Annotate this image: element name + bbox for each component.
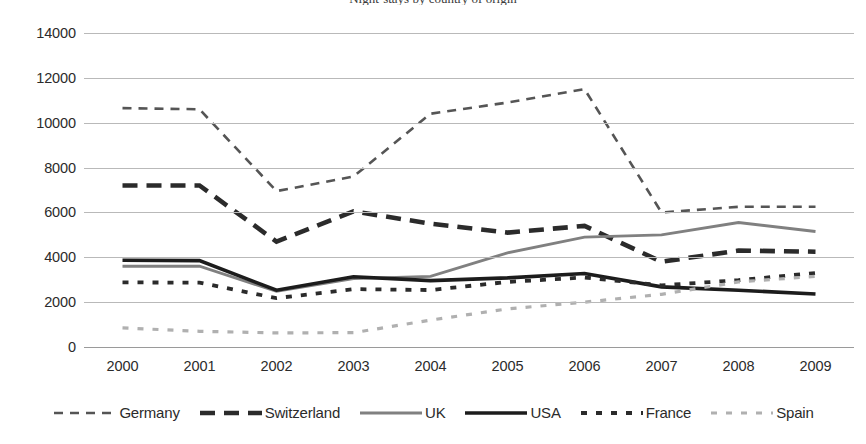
- series-line-germany: [123, 89, 816, 212]
- legend-item-switzerland[interactable]: Switzerland: [198, 404, 340, 421]
- legend-swatch-germany: [52, 406, 118, 420]
- y-tick-label: 6000: [6, 204, 76, 220]
- gridline-8000: [84, 168, 854, 169]
- y-tick-label: 4000: [6, 249, 76, 265]
- y-tick-label: 14000: [6, 25, 76, 41]
- series-line-switzerland: [123, 186, 816, 262]
- x-tick-label: 2001: [184, 358, 216, 374]
- x-tick-label: 2005: [492, 358, 524, 374]
- legend-label: UK: [425, 404, 445, 421]
- x-axis-labels: 2000200120022003200420052006200720082009: [84, 358, 854, 382]
- gridline-6000: [84, 212, 854, 213]
- gridline-12000: [84, 78, 854, 79]
- x-tick-label: 2006: [569, 358, 601, 374]
- y-axis-labels: 14000120001000080006000400020000: [0, 33, 76, 347]
- legend-label: Spain: [776, 404, 813, 421]
- chart-legend: GermanySwitzerlandUKUSAFranceSpain: [0, 404, 866, 421]
- y-tick-label: 0: [6, 339, 76, 355]
- x-tick-label: 2007: [646, 358, 678, 374]
- gridline-2000: [84, 302, 854, 303]
- y-tick-label: 8000: [6, 160, 76, 176]
- x-tick-label: 2009: [800, 358, 832, 374]
- legend-swatch-spain: [709, 406, 775, 420]
- gridline-0: [84, 347, 854, 348]
- legend-swatch-uk: [358, 406, 424, 420]
- x-tick-label: 2000: [107, 358, 139, 374]
- plot-area: [84, 33, 854, 347]
- legend-item-usa[interactable]: USA: [463, 404, 560, 421]
- chart-title: Night-stays by country of origin: [0, 0, 866, 5]
- legend-label: Switzerland: [265, 404, 340, 421]
- legend-item-spain[interactable]: Spain: [709, 404, 813, 421]
- y-tick-label: 10000: [6, 115, 76, 131]
- x-tick-label: 2002: [261, 358, 293, 374]
- gridline-10000: [84, 123, 854, 124]
- legend-label: Germany: [119, 404, 179, 421]
- legend-label: France: [646, 404, 692, 421]
- legend-swatch-switzerland: [198, 406, 264, 420]
- legend-item-france[interactable]: France: [579, 404, 692, 421]
- legend-label: USA: [530, 404, 560, 421]
- line-chart: Night-stays by country of origin 1400012…: [0, 0, 866, 444]
- legend-swatch-usa: [463, 406, 529, 420]
- y-tick-label: 12000: [6, 70, 76, 86]
- series-line-france: [123, 273, 816, 298]
- legend-item-germany[interactable]: Germany: [52, 404, 179, 421]
- legend-swatch-france: [579, 406, 645, 420]
- y-tick-label: 2000: [6, 294, 76, 310]
- x-tick-label: 2004: [415, 358, 447, 374]
- series-layer: [84, 33, 854, 347]
- legend-item-uk[interactable]: UK: [358, 404, 445, 421]
- x-tick-label: 2003: [338, 358, 370, 374]
- gridline-14000: [84, 33, 854, 34]
- gridline-4000: [84, 257, 854, 258]
- x-tick-label: 2008: [723, 358, 755, 374]
